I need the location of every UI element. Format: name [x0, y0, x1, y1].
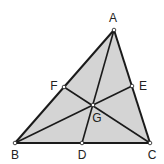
point-e-marker — [130, 84, 134, 88]
point-g-marker — [91, 103, 95, 107]
label-f: F — [50, 79, 57, 93]
point-d-marker — [80, 141, 84, 145]
label-c: C — [148, 148, 157, 162]
point-f-marker — [62, 85, 66, 89]
diagram-canvas: A B C D E F G — [0, 0, 164, 164]
label-e: E — [139, 79, 147, 93]
label-b: B — [11, 148, 19, 162]
label-d: D — [78, 148, 87, 162]
label-a: A — [109, 11, 117, 25]
label-g: G — [92, 111, 101, 125]
triangle-diagram: A B C D E F G — [0, 0, 164, 164]
point-a-marker — [112, 28, 116, 32]
point-b-marker — [13, 141, 17, 145]
point-c-marker — [148, 141, 152, 145]
